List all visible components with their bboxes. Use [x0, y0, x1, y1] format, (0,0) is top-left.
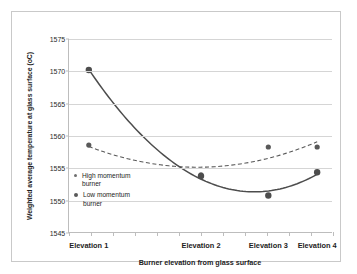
y-tick-label: 1545: [50, 230, 65, 237]
data-point: [86, 142, 91, 147]
y-tick-mark: [66, 39, 69, 40]
x-tick-mark: [289, 232, 290, 236]
y-tick-label: 1555: [50, 165, 65, 172]
x-tick-mark: [91, 232, 92, 236]
x-tick-mark: [113, 232, 114, 236]
y-gridline: [69, 71, 332, 72]
x-tick-label: Elevation 3: [249, 241, 288, 250]
x-tick-mark: [223, 232, 224, 236]
y-tick-mark: [66, 103, 69, 104]
chart-figure: 1545155015551560156515701575Elevation 1E…: [0, 0, 357, 274]
y-tick-label: 1565: [50, 100, 65, 107]
y-tick-label: 1570: [50, 68, 65, 75]
x-tick-mark: [157, 232, 158, 236]
y-gridline: [69, 168, 332, 169]
legend-label-low-line1: Low momentum: [83, 191, 130, 198]
legend-label-low-line2: burner: [83, 200, 102, 207]
x-tick-mark: [135, 232, 136, 236]
legend-item-high-momentum: High momentum burner: [74, 172, 130, 188]
data-point: [265, 192, 271, 198]
legend-label-high: High momentum burner: [82, 172, 130, 188]
y-tick-label: 1550: [50, 197, 65, 204]
x-tick-mark: [267, 232, 268, 236]
y-tick-label: 1560: [50, 133, 65, 140]
legend-label-low: Low momentum burner: [83, 191, 130, 207]
x-tick-label: Elevation 1: [69, 241, 108, 250]
series-line-high-momentum: [89, 142, 317, 167]
data-point: [266, 144, 271, 149]
y-tick-mark: [66, 71, 69, 72]
y-tick-mark: [66, 168, 69, 169]
y-tick-label: 1575: [50, 36, 65, 43]
legend-marker-icon-low: [74, 193, 78, 197]
data-point: [314, 169, 320, 175]
data-point: [198, 173, 204, 179]
x-axis-title: Burner elevation from glass surface: [68, 258, 332, 267]
x-tick-label: Elevation 2: [181, 241, 220, 250]
y-gridline: [69, 39, 332, 40]
y-axis-title: Weighted average temperature at glass su…: [26, 39, 38, 233]
chart-frame: 1545155015551560156515701575Elevation 1E…: [11, 11, 341, 262]
x-tick-label: Elevation 4: [298, 241, 337, 250]
x-tick-mark: [311, 232, 312, 236]
y-tick-mark: [66, 136, 69, 137]
x-tick-mark: [245, 232, 246, 236]
x-tick-mark: [333, 232, 334, 236]
x-tick-mark: [201, 232, 202, 236]
y-gridline: [69, 136, 332, 137]
chart-legend: High momentum burner Low momentum burner: [74, 172, 130, 211]
y-tick-mark: [66, 200, 69, 201]
legend-label-high-line2: burner: [82, 180, 101, 187]
x-tick-mark: [69, 232, 70, 236]
y-gridline: [69, 104, 332, 105]
legend-label-high-line1: High momentum: [82, 172, 130, 179]
legend-marker-icon-high: [74, 174, 77, 177]
data-point: [315, 144, 320, 149]
legend-item-low-momentum: Low momentum burner: [74, 191, 130, 207]
x-tick-mark: [179, 232, 180, 236]
